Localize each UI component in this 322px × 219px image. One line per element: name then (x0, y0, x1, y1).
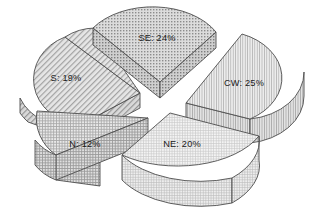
pie-chart-figure: S: 19% N: 12% SE: 24% CW: 25% (0, 0, 322, 219)
pie-slice-ne-label: NE: 20% (163, 139, 201, 149)
pie-slice-se-label: SE: 24% (138, 33, 175, 43)
pie-slice-cw-label: CW: 25% (224, 78, 264, 88)
pie-slice-n-label: N: 12% (69, 139, 100, 149)
pie-slice-s-label: S: 19% (51, 73, 82, 83)
pie-chart-svg: S: 19% N: 12% SE: 24% CW: 25% (0, 0, 322, 219)
